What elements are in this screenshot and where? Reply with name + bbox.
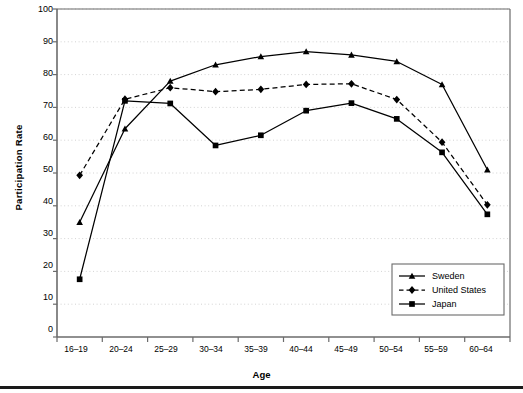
data-point [76, 171, 83, 179]
data-point [485, 211, 491, 217]
data-point [394, 116, 400, 122]
bottom-rule [0, 386, 523, 389]
series-japan [77, 98, 490, 282]
series-united-states [76, 80, 490, 209]
data-point [213, 143, 219, 149]
data-point [257, 85, 264, 93]
legend-marker-square [409, 301, 415, 307]
legend-label-japan: Japan [432, 299, 457, 309]
data-point [76, 219, 83, 225]
data-point [212, 88, 219, 96]
data-point [167, 84, 174, 92]
chart-legend: SwedenUnited StatesJapan [392, 264, 504, 315]
data-point [349, 100, 355, 106]
data-point [348, 80, 355, 88]
gridlines [57, 9, 510, 304]
chart-figure: Participation Rate 100 90 80 70 60 50 40… [0, 0, 523, 393]
series-layer [76, 48, 490, 282]
data-point [303, 81, 310, 89]
data-point [484, 166, 491, 172]
data-point [258, 132, 264, 138]
legend-label-united-states: United States [432, 285, 487, 295]
data-point [167, 101, 173, 107]
data-point [77, 276, 83, 282]
data-point [439, 149, 445, 155]
legend-label-sweden: Sweden [432, 271, 465, 281]
data-point [303, 108, 309, 114]
data-point [439, 81, 446, 87]
data-point [393, 96, 400, 104]
data-point [122, 98, 128, 104]
plot-area: SwedenUnited StatesJapan [0, 0, 523, 393]
